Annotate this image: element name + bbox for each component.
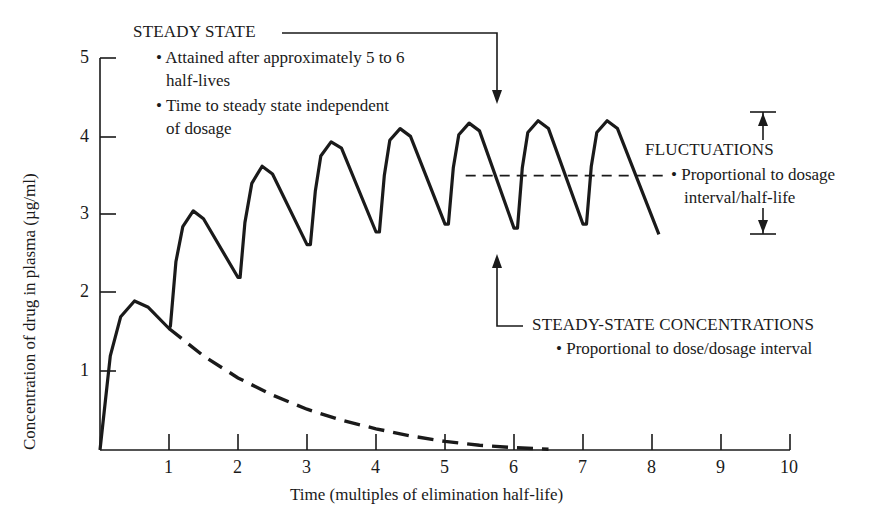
chart-canvas — [0, 0, 893, 529]
fluctuations-bullet: • Proportional to dosage — [671, 165, 835, 185]
arrowhead-up-icon — [492, 254, 502, 268]
x-tick-label: 9 — [716, 458, 725, 476]
x-tick-label: 3 — [302, 458, 311, 476]
y-tick-label: 1 — [80, 361, 89, 379]
y-axis-label: Concentration of drug in plasma (µg/ml) — [20, 173, 40, 450]
ss-concentrations-bullet: • Proportional to dose/dosage interval — [556, 339, 812, 359]
arrowhead-up-icon — [758, 113, 768, 126]
x-tick-label: 2 — [233, 458, 242, 476]
fluctuations-bullet-cont: interval/half-life — [684, 188, 795, 208]
steady-state-bullet-cont: half-lives — [166, 71, 230, 91]
x-axis-label: Time (multiples of elimination half-life… — [290, 485, 563, 505]
steady-state-bullet-cont: of dosage — [166, 119, 232, 139]
steady-state-bullet: • Time to steady state independent — [156, 96, 389, 116]
fluctuations-title: FLUCTUATIONS — [645, 140, 774, 160]
x-tick-label: 1 — [164, 458, 173, 476]
x-tick-label: 8 — [647, 458, 656, 476]
y-tick-label: 5 — [80, 48, 89, 66]
steady-state-title: STEADY STATE — [133, 22, 256, 42]
repeated-dosing-curve — [100, 121, 659, 450]
x-tick-label: 7 — [578, 458, 587, 476]
arrowhead-down-icon — [758, 220, 768, 233]
ss-concentrations-title: STEADY-STATE CONCENTRATIONS — [532, 315, 814, 335]
x-tick-label: 4 — [371, 458, 380, 476]
ss-conc-arrow — [497, 266, 523, 326]
single-dose-decay-curve — [169, 329, 549, 450]
steady-state-bullet: • Attained after approximately 5 to 6 — [156, 48, 405, 68]
y-tick-label: 2 — [80, 282, 89, 300]
x-tick-label: 6 — [509, 458, 518, 476]
axes — [100, 58, 790, 450]
x-tick-label: 10 — [780, 458, 798, 476]
arrowhead-down-icon — [492, 90, 502, 104]
y-tick-label: 3 — [80, 204, 89, 222]
y-tick-label: 4 — [80, 127, 89, 145]
x-tick-label: 5 — [440, 458, 449, 476]
